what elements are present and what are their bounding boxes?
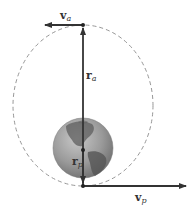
orbit-diagram: va ra rp vp: [0, 0, 194, 209]
r-a-label: ra: [86, 70, 97, 83]
v-p-label: vp: [135, 192, 147, 205]
v-a-label: va: [60, 10, 71, 23]
apoapsis-point: [81, 23, 85, 27]
v-a-subscript: a: [66, 14, 71, 23]
r-p-label: rp: [72, 156, 83, 169]
v-p-subscript: p: [141, 196, 146, 205]
focus-point: [81, 148, 85, 152]
diagram-graphics: [0, 0, 194, 209]
r-p-subscript: p: [78, 160, 83, 169]
periapsis-point: [81, 184, 85, 188]
r-a-subscript: a: [92, 74, 97, 83]
